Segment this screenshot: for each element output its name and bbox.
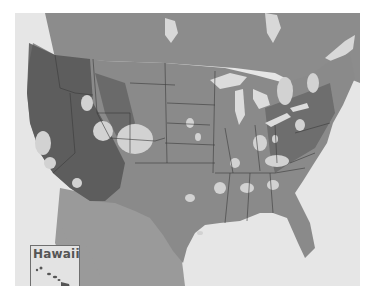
hawaii-islands [31, 246, 79, 286]
map-frame: Hawaii [15, 13, 360, 286]
hawaii-inset: Hawaii [30, 245, 80, 286]
